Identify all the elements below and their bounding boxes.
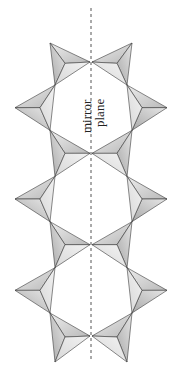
tetrahedron-9 [92, 222, 132, 268]
tetrahedron-12 [50, 313, 90, 362]
tetrahedron-11 [127, 268, 167, 313]
tetrahedron-10 [15, 268, 55, 313]
tetrahedron-8 [50, 222, 90, 268]
tetrahedron-13 [92, 313, 132, 362]
mirror-plane-label: mirror plane [80, 99, 106, 133]
tetrahedron-6 [15, 176, 55, 221]
mirror-plane-tetrahedra-diagram [0, 0, 195, 375]
label-line-plane: plane [93, 99, 106, 133]
tetrahedron-2 [15, 85, 55, 130]
tetrahedron-0 [50, 43, 90, 85]
tetrahedron-4 [50, 130, 90, 176]
tetrahedron-5 [92, 130, 132, 176]
tetrahedron-7 [127, 176, 167, 221]
tetrahedron-1 [92, 43, 132, 85]
tetrahedron-3 [127, 85, 167, 130]
